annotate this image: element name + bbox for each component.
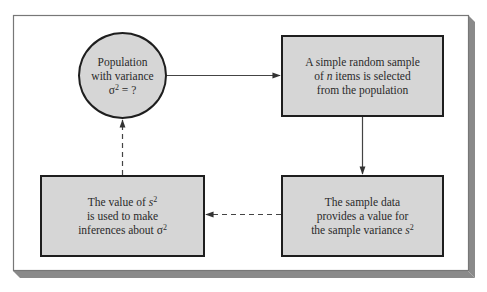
node-inference: The value of s2 is used to make inferenc… <box>40 175 205 257</box>
diagram-canvas: Population with variance σ2 = ? A simple… <box>0 0 487 292</box>
population-line-3: σ2 = ? <box>91 83 153 97</box>
population-line-1: Population <box>91 55 153 69</box>
sample-data-line-1: The sample data <box>311 195 414 209</box>
sample-data-line-3: the sample variance s2 <box>311 223 414 237</box>
sample-line-2: of n items is selected <box>305 69 420 83</box>
node-population: Population with variance σ2 = ? <box>78 32 167 119</box>
sample-data-line-2: provides a value for <box>311 209 414 223</box>
frame-shadow-bottom <box>13 271 475 278</box>
node-sample: A simple random sample of n items is sel… <box>281 35 444 117</box>
sample-line-1: A simple random sample <box>305 55 420 69</box>
inference-line-2: is used to make <box>78 209 167 223</box>
population-line-2: with variance <box>91 69 153 83</box>
inference-line-1: The value of s2 <box>78 195 167 209</box>
inference-line-3: inferences about σ2 <box>78 223 167 237</box>
node-sample-data: The sample data provides a value for the… <box>281 175 444 257</box>
sample-line-3: from the population <box>305 83 420 97</box>
